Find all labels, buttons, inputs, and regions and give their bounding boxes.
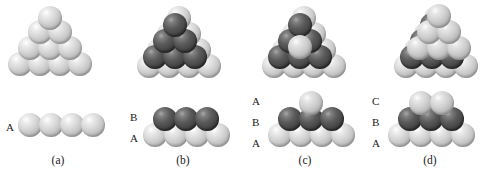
sphere-light-a-layer — [288, 35, 312, 59]
sphere-dark — [288, 13, 312, 37]
layer-label-a: A — [130, 133, 138, 144]
panel-a-caption: (a) — [28, 155, 88, 167]
layer-label-a: A — [372, 138, 380, 149]
panel-b: B A (b) — [120, 0, 240, 175]
layer-label-a: A — [6, 122, 14, 133]
layer-label-b: B — [130, 112, 138, 123]
panel-c-caption: (c) — [275, 155, 335, 167]
panel-b-caption: (b) — [153, 155, 213, 167]
sphere-light-a-layer — [299, 91, 323, 115]
panel-d-caption: (d) — [400, 155, 460, 167]
layer-label-a-top: A — [252, 96, 260, 107]
layer-label-a-bottom: A — [252, 138, 260, 149]
panel-d: C B A (d) — [362, 0, 486, 175]
panel-c: A B A (c) — [240, 0, 362, 175]
sphere-dark — [320, 107, 344, 131]
sphere-light — [81, 113, 105, 137]
sphere-light — [38, 6, 62, 30]
sphere-light-c-layer — [427, 4, 451, 28]
panel-a: A (a) — [0, 0, 120, 175]
layer-label-c: C — [372, 96, 380, 107]
sphere-light-c-layer — [430, 91, 454, 115]
layer-label-b: B — [252, 117, 260, 128]
layer-label-b: B — [372, 117, 380, 128]
close-packing-figure: A (a) — [0, 0, 486, 175]
sphere-dark — [195, 107, 219, 131]
sphere-dark — [163, 13, 187, 37]
